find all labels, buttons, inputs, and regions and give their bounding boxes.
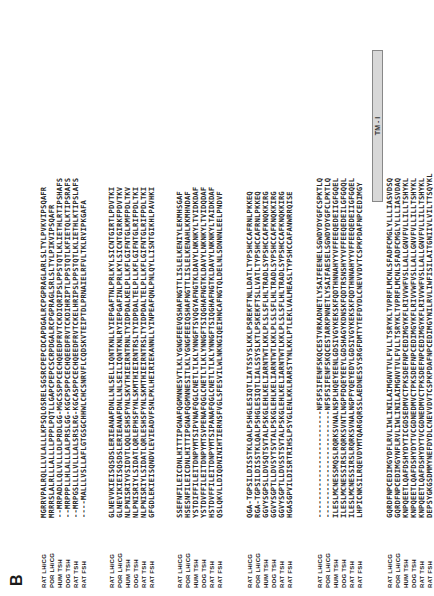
species-label: RAT LH/CG	[316, 518, 324, 588]
sequence-text: LHPICNKSILRQEVDYMTQARGQRSSLAEDNESSYSRGFD…	[356, 182, 364, 518]
sequence-text: QSLQKVLLDIQDNINIHTIERNSFVGLSFESVILWLNKNG…	[216, 191, 224, 518]
species-label: RAT LH/CG	[176, 518, 184, 588]
sequence-text: ----MALLLVSLLAFLGTGSGCHHWLCHCSNRVFLCQDSK…	[80, 200, 88, 518]
species-label: RAT FSH	[216, 518, 224, 588]
sequence-row: RAT FSHDEPSYGKGSDMMYNEFDYDLCNEVVDVTCSPKP…	[426, 173, 434, 588]
species-label: POR LH/CG	[324, 518, 332, 588]
species-label: POR LH/CG	[184, 518, 192, 588]
species-label: RAT FSH	[80, 518, 88, 588]
species-label: RAT LH/CG	[246, 518, 254, 588]
species-label: RAT FSH	[148, 518, 156, 588]
species-label: HUM TSH	[124, 518, 132, 588]
species-label: POR LH/CG	[48, 518, 56, 588]
alignment-block: RAT LH/CGSSEFNFILEICDNLHITTIPGNAFQGMNNES…	[176, 187, 224, 588]
alignment-block: RAT LH/CG------------------------NFSFSIF…	[316, 178, 364, 588]
species-label: RAT LH/CG	[40, 518, 48, 588]
alignment-block: RAT LH/CGMGRRVPALRQLLLVLALLLKPSQLOSRELSG…	[40, 178, 88, 588]
species-label: RAT LH/CG	[108, 518, 116, 588]
alignment-block: RAT LH/CGQGA-TGPSILDISSTKLQALPSHGLESIQTL…	[246, 191, 294, 588]
species-label: RAT TSH	[278, 518, 286, 588]
sequence-row: RAT FSHHGASGPVILDISRTRIHSLPSYGLENLKKLRAR…	[286, 191, 294, 588]
species-label: HUM TSH	[262, 518, 270, 588]
sequence-row: RAT FSHQSLQKVLLDIQDNINIHTIERNSFVGLSFESVI…	[216, 187, 224, 588]
species-label: DOG TSH	[270, 518, 278, 588]
species-label: DOG TSH	[340, 518, 348, 588]
species-label: RAT FSH	[356, 518, 364, 588]
species-label: HUM TSH	[56, 518, 64, 588]
species-label: POR LH/CG	[116, 518, 124, 588]
sequence-text: DEPSYGKGSDMMYNEFDYDLCNEVVDVTCSPKPDAFNPCE…	[426, 173, 434, 518]
species-label: DOG TSH	[64, 518, 72, 588]
sequence-row: RAT FSHLHPICNKSILRQEVDYMTQARGQRSSLAEDNES…	[356, 178, 364, 588]
sequence-text: GFGDLEKIEISQNDVLEVIEADVFSNLPKLHEIRIEKANN…	[148, 187, 156, 518]
species-label: HUM TSH	[192, 518, 200, 588]
sequence-text: HGASGPVILDISRTRIHSLPSYGLENLKKLRARSTYNLKK…	[286, 191, 294, 518]
species-label: RAT FSH	[286, 518, 294, 588]
species-label: DOG TSH	[200, 518, 208, 588]
species-label: DOG TSH	[132, 518, 140, 588]
species-label: RAT FSH	[426, 518, 434, 588]
species-label: RAT TSH	[348, 518, 356, 588]
sequence-row: RAT FSHGFGDLEKIEISQNDVLEVIEADVFSNLPKLHEI…	[148, 187, 156, 588]
panel-label: B	[8, 574, 26, 586]
species-label: RAT TSH	[418, 518, 426, 588]
alignment-block: RAT LH/CGGQRDFNPCEDIMGYDFLRVLIWLINILAIMG…	[386, 173, 434, 588]
sequence-row: RAT FSH----MALLLVSLLAFLGTGSGCHHWLCHCSNRV…	[80, 178, 88, 588]
species-label: RAT TSH	[208, 518, 216, 588]
tm1-annotation-bar: TM - I	[372, 50, 383, 202]
species-label: RAT TSH	[140, 518, 148, 588]
species-label: HUM TSH	[332, 518, 340, 588]
alignment-block: RAT LH/CGGLNEVVKIEISQSDSLERIEANAFDNLLNLS…	[108, 187, 156, 588]
species-label: RAT TSH	[72, 518, 80, 588]
species-label: POR LH/CG	[254, 518, 262, 588]
species-label: RAT LH/CG	[386, 518, 394, 588]
species-label: POR LH/CG	[394, 518, 402, 588]
species-label: HUM TSH	[402, 518, 410, 588]
species-label: DOG TSH	[410, 518, 418, 588]
